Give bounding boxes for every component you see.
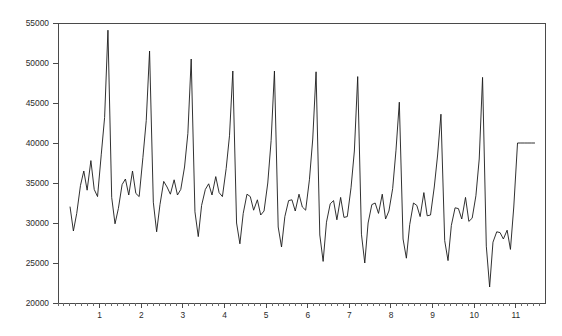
x-axis-tick-label: 7	[347, 310, 352, 320]
y-axis-tick-label: 30000	[26, 218, 50, 228]
y-axis-tick-label: 35000	[26, 178, 50, 188]
y-axis-tick-label: 20000	[26, 298, 50, 308]
x-axis-tick-label: 4	[222, 310, 227, 320]
line-chart-plot: 2000025000300003500040000450005000055000…	[0, 0, 562, 336]
y-axis-tick-label: 40000	[26, 138, 50, 148]
x-axis-tick-label: 11	[512, 310, 521, 320]
x-axis-tick-label: 1	[97, 310, 102, 320]
chart-figure: 2000025000300003500040000450005000055000…	[0, 0, 562, 336]
x-axis-tick-label: 3	[181, 310, 186, 320]
chart-background	[0, 0, 562, 336]
x-axis-tick-label: 10	[470, 310, 480, 320]
x-axis-tick-label: 6	[305, 310, 310, 320]
y-axis-tick-label: 50000	[26, 58, 50, 68]
x-axis-tick-label: 2	[139, 310, 144, 320]
y-axis-tick-label: 45000	[26, 98, 50, 108]
x-axis-tick-label: 5	[264, 310, 269, 320]
x-axis-tick-label: 8	[389, 310, 394, 320]
y-axis-tick-label: 25000	[26, 258, 50, 268]
y-axis-tick-label: 55000	[26, 18, 50, 28]
x-axis-tick-label: 9	[430, 310, 435, 320]
